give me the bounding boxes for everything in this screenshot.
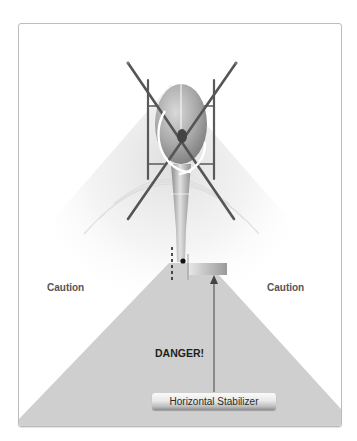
caution-label-left: Caution: [47, 282, 84, 293]
horizontal-stabilizer-label: Horizontal Stabilizer: [152, 393, 276, 410]
caution-label-right: Caution: [267, 282, 304, 293]
cropped-caption-fragment: [0, 0, 357, 4]
rotor-hub-icon: [177, 129, 187, 143]
danger-label: DANGER!: [155, 347, 204, 359]
diagram-canvas: [19, 24, 341, 426]
diagram-panel: Caution Caution DANGER! Horizontal Stabi…: [18, 23, 342, 427]
horizontal-stabilizer: [189, 263, 227, 275]
tail-rotor-hub-icon: [180, 258, 185, 263]
